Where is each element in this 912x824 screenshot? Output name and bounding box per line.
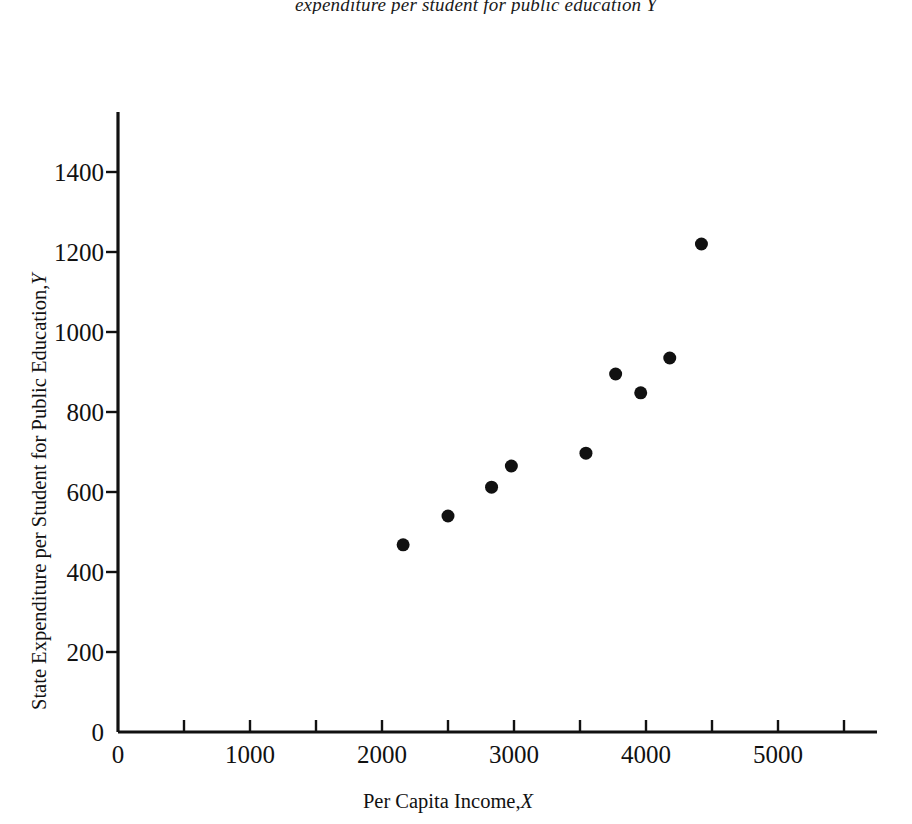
data-point bbox=[442, 510, 455, 523]
data-point bbox=[397, 538, 410, 551]
data-point bbox=[609, 368, 622, 381]
data-points bbox=[397, 238, 708, 552]
data-point bbox=[505, 460, 518, 473]
plot-axes bbox=[118, 112, 877, 732]
axis-ticks bbox=[106, 172, 844, 732]
data-point bbox=[634, 386, 647, 399]
data-point bbox=[579, 447, 592, 460]
data-point bbox=[695, 238, 708, 251]
data-point bbox=[663, 352, 676, 365]
data-point bbox=[485, 481, 498, 494]
scatter-plot bbox=[0, 0, 912, 824]
